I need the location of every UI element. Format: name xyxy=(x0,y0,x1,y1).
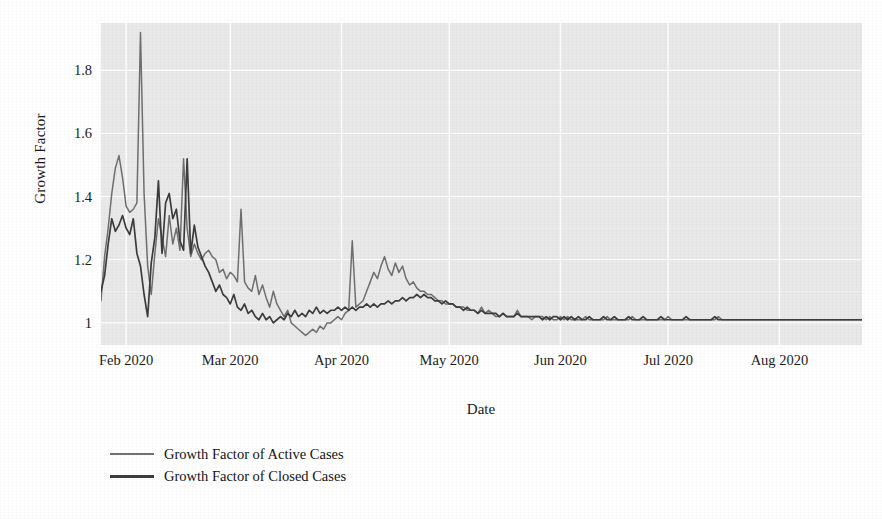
y-tick-label: 1.4 xyxy=(52,189,92,204)
x-tick-label: Jul 2020 xyxy=(643,352,693,369)
x-tick-label: May 2020 xyxy=(420,352,479,369)
x-tick-label: Feb 2020 xyxy=(99,352,153,369)
legend-line-swatch-icon xyxy=(110,475,154,478)
series-line-1 xyxy=(101,159,862,323)
legend-item[interactable]: Growth Factor of Closed Cases xyxy=(110,465,346,487)
y-tick-label: 1.8 xyxy=(52,63,92,78)
plot-svg xyxy=(101,23,862,345)
x-tick-label: Jun 2020 xyxy=(534,352,587,369)
chart-figure: Growth Factor 11.21.41.61.8 Feb 2020Mar … xyxy=(0,0,882,519)
y-axis-title: Growth Factor xyxy=(32,59,49,259)
x-tick-label: Mar 2020 xyxy=(202,352,259,369)
y-tick-label: 1.2 xyxy=(52,253,92,268)
legend-item-label: Growth Factor of Closed Cases xyxy=(164,468,346,485)
y-tick-labels: 11.21.41.61.8 xyxy=(52,0,92,519)
legend-line-swatch-icon xyxy=(110,453,154,455)
x-tick-label: Aug 2020 xyxy=(751,352,809,369)
x-tick-label: Apr 2020 xyxy=(314,352,369,369)
plot-panel xyxy=(101,23,862,345)
chart-legend: Growth Factor of Active CasesGrowth Fact… xyxy=(110,443,346,487)
x-axis-title: Date xyxy=(0,401,882,418)
y-tick-label: 1.6 xyxy=(52,126,92,141)
y-tick-label: 1 xyxy=(52,316,92,331)
legend-item-label: Growth Factor of Active Cases xyxy=(164,446,344,463)
legend-item[interactable]: Growth Factor of Active Cases xyxy=(110,443,346,465)
